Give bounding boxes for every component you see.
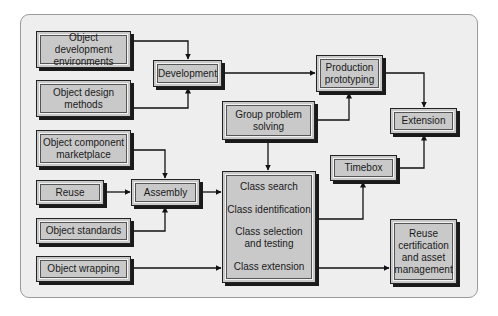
node-object-wrapping[interactable]: Object wrapping [36, 256, 131, 282]
node-label: Object wrapping [43, 263, 123, 275]
node-object-component-marketplace[interactable]: Object component marketplace [36, 130, 131, 167]
node-label: Development [154, 68, 221, 80]
node-reuse-certification-asset-management[interactable]: Reuse certification and asset management [390, 219, 457, 284]
node-reuse[interactable]: Reuse [36, 180, 104, 205]
class-extension-label: Class extension [230, 261, 309, 273]
node-label: Assembly [140, 187, 191, 199]
node-object-design-methods[interactable]: Object design methods [36, 80, 131, 117]
node-label: Group problem solving [231, 109, 306, 133]
node-label: Object development environments [37, 32, 130, 68]
node-label: Reuse [52, 187, 89, 199]
node-label: Reuse certification and asset management [390, 228, 456, 276]
node-object-standards[interactable]: Object standards [36, 218, 131, 244]
node-production-prototyping[interactable]: Production prototyping [316, 55, 383, 92]
node-label: Object standards [42, 225, 126, 237]
node-label: Object design methods [49, 87, 118, 111]
class-selection-testing-label: Class selection and testing [231, 226, 306, 250]
class-identification-label: Class identification [223, 204, 314, 216]
node-object-development-environments[interactable]: Object development environments [36, 31, 131, 68]
node-label: Production prototyping [321, 62, 378, 86]
node-assembly[interactable]: Assembly [131, 179, 200, 206]
node-label: Timebox [341, 162, 387, 174]
node-label: Object component marketplace [39, 137, 128, 161]
node-development[interactable]: Development [153, 60, 222, 87]
class-search-label: Class search [236, 181, 302, 193]
node-label: Extension [398, 115, 450, 127]
node-timebox[interactable]: Timebox [330, 155, 397, 181]
node-group-problem-solving[interactable]: Group problem solving [222, 101, 315, 140]
node-extension[interactable]: Extension [390, 108, 457, 134]
node-class-activities[interactable]: Class search Class identification Class … [222, 171, 316, 283]
